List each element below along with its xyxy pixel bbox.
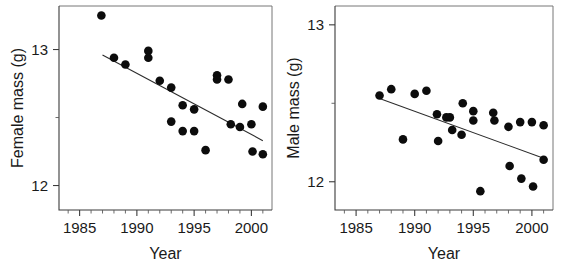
data-point (167, 117, 176, 126)
female-mass-scatter-plot: 19851990199520001213YearFemale mass (g) (0, 0, 283, 270)
data-point (110, 53, 119, 62)
x-tick-label: 1990 (398, 219, 431, 236)
data-point (226, 120, 235, 129)
y-tick-label: 13 (307, 16, 324, 33)
y-axis-title: Male mass (g) (285, 57, 302, 158)
x-tick-label: 1995 (457, 219, 490, 236)
data-point (469, 107, 478, 116)
data-point (155, 77, 164, 86)
data-point (259, 150, 268, 159)
figure-container: 19851990199520001213YearFemale mass (g) … (0, 0, 563, 270)
data-point (505, 162, 514, 171)
data-point (178, 127, 187, 136)
data-point (238, 100, 247, 109)
data-point (504, 123, 513, 132)
data-point (448, 126, 457, 135)
x-axis-title: Year (149, 245, 182, 262)
y-axis-title: Female mass (g) (9, 48, 26, 168)
data-point (236, 123, 245, 132)
data-point (457, 130, 466, 139)
plot-frame (59, 6, 272, 210)
data-point (528, 118, 537, 127)
data-point (539, 155, 548, 164)
data-point (517, 174, 526, 183)
data-point (248, 147, 257, 156)
male-mass-scatter-plot: 19851990199520001213YearMale mass (g) (280, 0, 563, 270)
data-point (458, 99, 467, 108)
data-point (201, 146, 210, 155)
x-tick-label: 2000 (515, 219, 548, 236)
chart-panel-female: 19851990199520001213YearFemale mass (g) (0, 0, 283, 270)
x-tick-label: 1995 (177, 219, 210, 236)
data-point (539, 121, 548, 130)
data-point (434, 137, 443, 146)
y-tick-label: 13 (31, 41, 48, 58)
data-point (410, 90, 419, 99)
x-axis-title: Year (428, 245, 461, 262)
data-point (121, 60, 130, 69)
data-point (446, 113, 455, 122)
data-point (387, 85, 396, 94)
data-point (213, 75, 222, 84)
data-point (247, 120, 256, 129)
data-point (399, 135, 408, 144)
x-tick-label: 1990 (120, 219, 153, 236)
data-point (476, 187, 485, 196)
x-tick-label: 1985 (63, 219, 96, 236)
plot-axes (59, 6, 272, 210)
data-point (190, 127, 199, 136)
data-point (144, 53, 153, 62)
data-point (190, 105, 199, 114)
data-point (489, 108, 498, 117)
data-point (422, 86, 431, 95)
data-point (375, 91, 384, 100)
data-point (167, 83, 176, 92)
x-tick-label: 2000 (235, 219, 268, 236)
data-point (97, 11, 106, 20)
data-point (224, 75, 233, 84)
data-point (178, 101, 187, 110)
y-tick-label: 12 (31, 177, 48, 194)
data-point (469, 116, 478, 125)
data-point (529, 182, 538, 191)
data-point (259, 102, 268, 111)
chart-panel-male: 19851990199520001213YearMale mass (g) (280, 0, 563, 270)
regression-line (380, 99, 544, 159)
data-point (433, 110, 442, 119)
x-tick-label: 1985 (339, 219, 372, 236)
y-tick-label: 12 (307, 173, 324, 190)
data-point (490, 116, 499, 125)
data-point (516, 118, 525, 127)
